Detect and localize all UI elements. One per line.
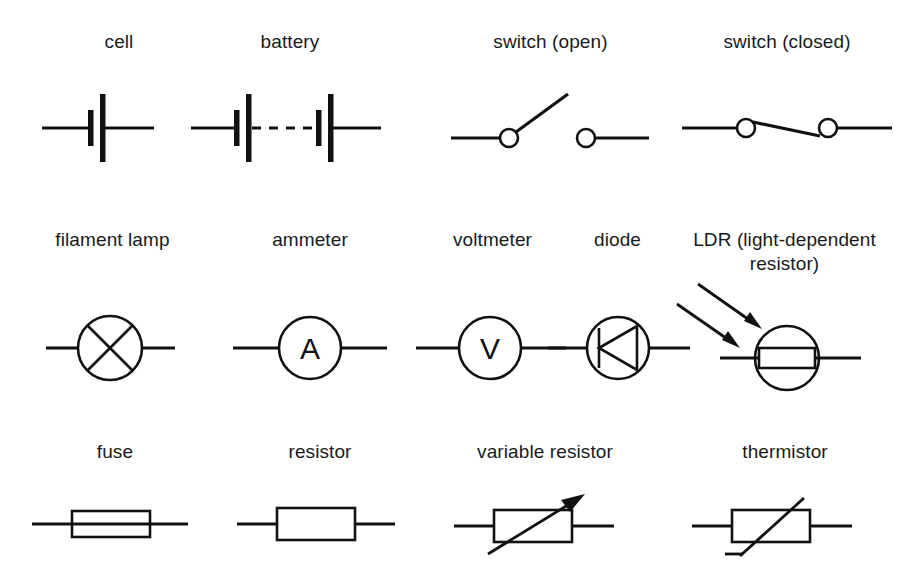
symbol-cell-ldr: LDR (light-dependent resistor): [655, 228, 914, 398]
voltmeter-glyph: V: [480, 332, 500, 365]
battery-symbol: [175, 88, 405, 168]
symbol-label-thermistor: thermistor: [670, 440, 900, 464]
symbol-label-filament-lamp: filament lamp: [5, 228, 220, 252]
symbol-label-ldr: LDR (light-dependent resistor): [655, 228, 914, 276]
switch-closed-symbol: [672, 88, 902, 168]
symbol-cell-fuse: fuse: [10, 440, 220, 562]
symbol-label-variable-resistor: variable resistor: [430, 440, 660, 464]
ldr-symbol: [655, 276, 914, 396]
symbol-cell-filament-lamp: filament lamp: [5, 228, 220, 388]
variable-resistor-symbol: [430, 478, 660, 562]
symbol-label-ammeter: ammeter: [215, 228, 405, 252]
symbol-cell-ammeter: ammeter A: [215, 228, 405, 388]
symbol-label-battery: battery: [175, 30, 405, 54]
symbol-label-switch-closed: switch (closed): [672, 30, 902, 54]
symbol-cell-variable-resistor: variable resistor: [430, 440, 660, 562]
filament-lamp-symbol: [5, 304, 220, 392]
symbol-cell-battery: battery: [175, 30, 405, 170]
light-arrow-lower: [677, 304, 740, 348]
symbol-cell-resistor: resistor: [215, 440, 425, 562]
switch-open-symbol: [443, 76, 658, 168]
ammeter-symbol: A: [215, 304, 405, 392]
symbol-label-fuse: fuse: [10, 440, 220, 464]
symbol-label-switch-open: switch (open): [443, 30, 658, 54]
fuse-symbol: [10, 488, 220, 558]
light-arrow-upper: [698, 284, 762, 329]
thermistor-symbol: [670, 478, 900, 562]
symbol-cell-thermistor: thermistor: [670, 440, 900, 562]
symbol-label-resistor: resistor: [215, 440, 425, 464]
ammeter-glyph: A: [300, 332, 320, 365]
symbol-cell-switch-open: switch (open): [443, 30, 658, 170]
resistor-symbol: [215, 488, 425, 558]
circuit-symbols-sheet: cell battery switch (open: [0, 0, 914, 562]
symbol-cell-switch-closed: switch (closed): [672, 30, 902, 170]
